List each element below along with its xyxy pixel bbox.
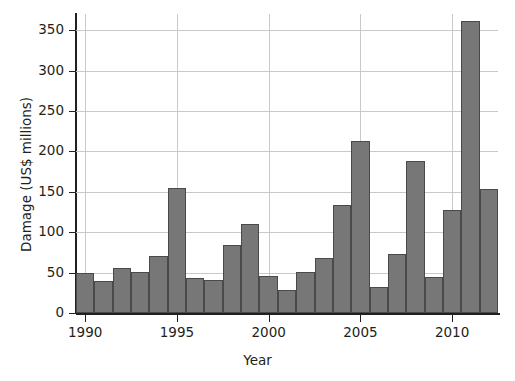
y-tick-300 <box>69 71 76 72</box>
bar-2005 <box>351 141 369 313</box>
bar-2002 <box>296 272 314 313</box>
bar-1998 <box>223 245 241 313</box>
bar-1996 <box>186 278 204 313</box>
gridline-x-2000 <box>269 14 270 313</box>
bar-1995 <box>168 188 186 313</box>
x-tick-2005 <box>360 315 361 322</box>
bar-2007 <box>388 254 406 313</box>
y-tick-label-200: 200 <box>0 144 64 158</box>
bar-1997 <box>204 280 222 313</box>
bar-1999 <box>241 224 259 313</box>
y-tick-label-350: 350 <box>0 23 64 37</box>
gridline-y-300 <box>76 71 498 72</box>
x-tick-label-1990: 1990 <box>55 325 115 339</box>
x-axis-title: Year <box>0 352 515 368</box>
x-tick-label-2000: 2000 <box>239 325 299 339</box>
y-tick-350 <box>69 30 76 31</box>
bar-1994 <box>149 256 167 313</box>
y-tick-label-250: 250 <box>0 104 64 118</box>
bar-1991 <box>94 281 112 313</box>
y-tick-200 <box>69 151 76 152</box>
y-tick-label-100: 100 <box>0 225 64 239</box>
x-tick-label-1995: 1995 <box>147 325 207 339</box>
y-tick-0 <box>69 313 76 314</box>
gridline-y-250 <box>76 111 498 112</box>
bar-2006 <box>370 287 388 313</box>
x-tick-1990 <box>85 315 86 322</box>
bar-2004 <box>333 205 351 313</box>
gridline-y-150 <box>76 192 498 193</box>
y-tick-100 <box>69 232 76 233</box>
bar-1993 <box>131 272 149 313</box>
damage-by-year-bar-chart: Damage (US$ millions) Year 0501001502002… <box>0 0 515 381</box>
bar-2000 <box>259 276 277 313</box>
x-tick-label-2010: 2010 <box>422 325 482 339</box>
bar-2001 <box>278 290 296 313</box>
y-tick-label-0: 0 <box>0 306 64 320</box>
x-tick-1995 <box>177 315 178 322</box>
y-tick-250 <box>69 111 76 112</box>
y-tick-label-50: 50 <box>0 266 64 280</box>
plot-area <box>76 14 498 313</box>
bar-1992 <box>113 268 131 313</box>
bar-2009 <box>425 277 443 313</box>
y-tick-label-300: 300 <box>0 64 64 78</box>
x-tick-2010 <box>452 315 453 322</box>
bar-1990 <box>76 273 94 313</box>
bar-2003 <box>315 258 333 313</box>
gridline-x-1990 <box>85 14 86 313</box>
bar-2008 <box>406 161 424 313</box>
gridline-y-100 <box>76 232 498 233</box>
x-axis-line <box>76 313 500 315</box>
x-tick-label-2005: 2005 <box>330 325 390 339</box>
y-tick-label-150: 150 <box>0 185 64 199</box>
bar-2012 <box>480 189 498 313</box>
gridline-y-350 <box>76 30 498 31</box>
bar-2010 <box>443 210 461 313</box>
bar-2011 <box>461 21 479 313</box>
y-tick-50 <box>69 273 76 274</box>
y-tick-150 <box>69 192 76 193</box>
gridline-y-200 <box>76 151 498 152</box>
x-tick-2000 <box>269 315 270 322</box>
